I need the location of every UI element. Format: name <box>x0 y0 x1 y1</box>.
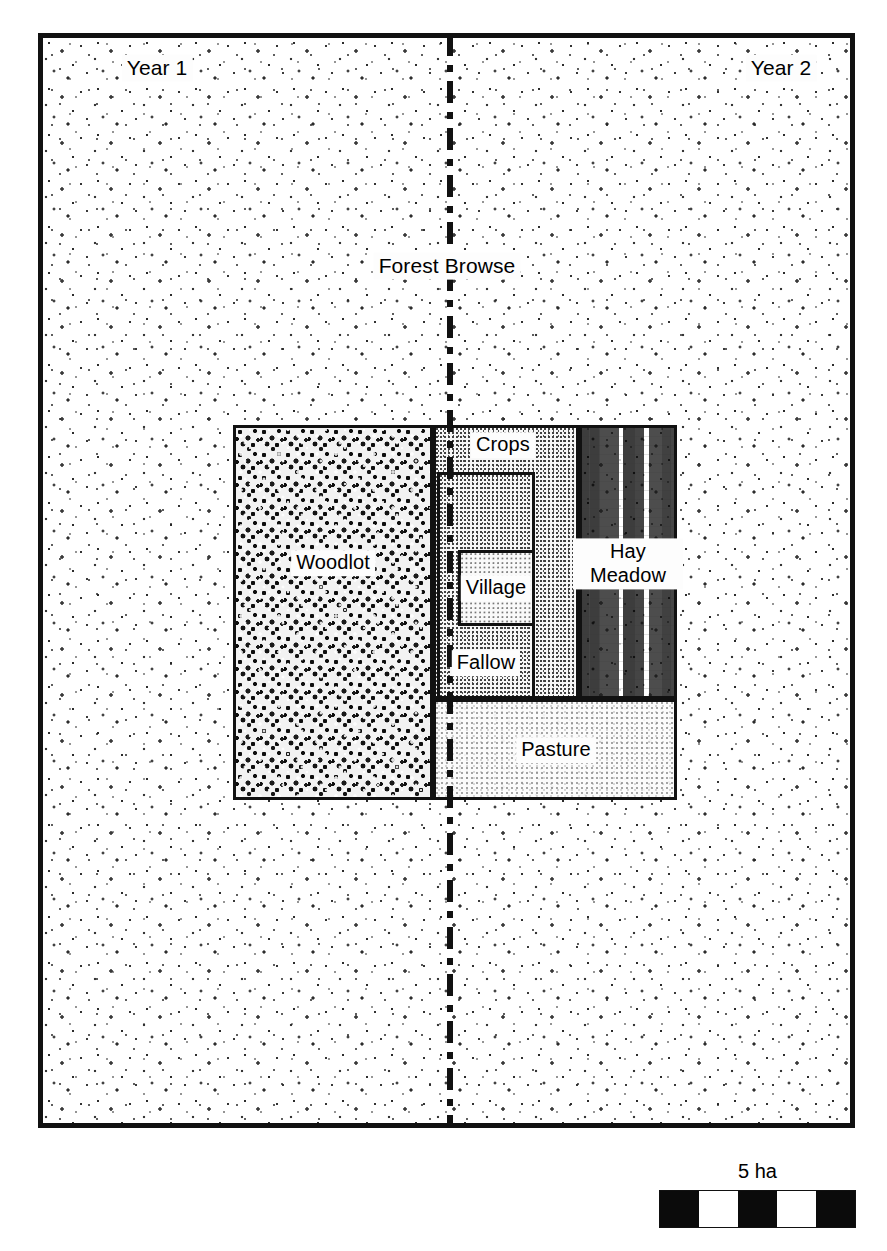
scale-caption: 5 ha <box>659 1160 856 1183</box>
parcel-woodlot <box>233 425 433 800</box>
hay-meadow-label-line1: Hay <box>576 540 680 564</box>
woodlot-texture <box>236 428 430 797</box>
year-divider-line <box>447 34 453 1128</box>
pasture-label: Pasture <box>516 737 596 763</box>
scale-bar-block: 5 ha <box>659 1160 856 1228</box>
crops-label: Crops <box>471 432 535 458</box>
scale-segment <box>660 1191 699 1227</box>
year-1-label: Year 1 <box>122 55 193 82</box>
woodlot-label: Woodlot <box>291 550 375 576</box>
hay-meadow-label-line2: Meadow <box>576 564 680 588</box>
fallow-label: Fallow <box>452 650 520 676</box>
year-2-label: Year 2 <box>746 55 817 82</box>
scale-segment <box>699 1191 738 1227</box>
scale-bar <box>659 1190 856 1228</box>
map-frame: Year 1 Year 2 Forest Browse Woodlot Crop… <box>38 33 855 1128</box>
forest-browse-label: Forest Browse <box>374 253 521 280</box>
scale-segment <box>777 1191 816 1227</box>
village-label: Village <box>461 575 531 601</box>
scale-segment <box>816 1191 855 1227</box>
figure-canvas: Year 1 Year 2 Forest Browse Woodlot Crop… <box>0 0 887 1251</box>
scale-segment <box>738 1191 777 1227</box>
hay-meadow-label: Hay Meadow <box>573 538 683 589</box>
